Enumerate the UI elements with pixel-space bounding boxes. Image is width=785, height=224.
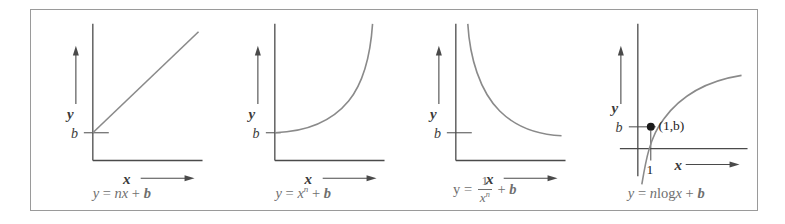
formula-constant: b <box>509 181 516 197</box>
point-marker-1-b <box>646 123 654 131</box>
formula-exponent: n <box>304 184 309 194</box>
formula-numerator: 1 <box>478 174 492 188</box>
intercept-label: b <box>253 126 260 142</box>
formula-plus: + <box>686 185 694 201</box>
inverse-power-curve <box>468 24 562 136</box>
formula-lhs: y <box>276 185 282 201</box>
formula-constant: b <box>144 185 151 201</box>
formula-constant: b <box>324 185 331 201</box>
formula-equals: = <box>638 185 646 201</box>
y-axis-label: y <box>612 100 619 117</box>
formula-fraction: 1 xn <box>478 174 492 205</box>
formula-equals: = <box>464 181 472 197</box>
intercept-label: b <box>71 126 78 142</box>
y-axis-arrow-head <box>254 46 260 56</box>
y-axis-label: y <box>67 106 74 123</box>
y-axis-arrow-head <box>73 46 79 56</box>
intercept-label: b <box>616 120 623 136</box>
x-tick-label-one: 1 <box>647 162 654 178</box>
x-axis-label: x <box>675 157 683 174</box>
formula-variable: x <box>676 185 682 201</box>
x-axis-arrow-head <box>729 161 739 167</box>
formula-denominator-exponent: n <box>486 190 490 199</box>
logarithmic-formula: y = nlogx + b <box>576 185 758 202</box>
linear-function-panel: y b x y = nx + b <box>31 10 213 210</box>
formula-plus: + <box>132 185 140 201</box>
power-plot <box>213 10 395 210</box>
power-function-panel: y b x y = xn + b <box>213 10 395 210</box>
formula-plus: + <box>497 181 505 197</box>
formula-constant: b <box>697 185 704 201</box>
intercept-label: b <box>434 126 441 142</box>
linear-formula: y = nx + b <box>31 185 213 202</box>
logarithmic-plot <box>576 10 758 210</box>
formula-coefficient: n <box>115 185 122 201</box>
x-axis-arrow-head <box>185 175 195 181</box>
power-formula: y = xn + b <box>213 184 395 202</box>
y-axis-label: y <box>249 106 256 123</box>
formula-log: log <box>657 185 676 201</box>
formula-lhs: y <box>93 185 99 201</box>
inverse-power-function-panel: y b x y = 1 xn + b <box>394 10 576 210</box>
figure-frame: y b x y = nx + b y b <box>30 9 758 211</box>
inverse-power-formula: y = 1 xn + b <box>394 175 576 206</box>
y-axis-arrow-head <box>436 46 442 56</box>
formula-lhs: y <box>453 181 460 197</box>
linear-plot <box>31 10 213 210</box>
linear-curve <box>93 32 199 133</box>
formula-coefficient: n <box>650 185 657 201</box>
logarithmic-function-panel: y b (1,b) 1 x y = nlogx + b <box>576 10 758 210</box>
formula-lhs: y <box>628 185 634 201</box>
formula-plus: + <box>312 185 320 201</box>
logarithmic-curve <box>641 75 741 184</box>
formula-variable: x <box>122 185 128 201</box>
y-axis-arrow-head <box>617 46 623 56</box>
formula-equals: = <box>103 185 111 201</box>
y-axis-label: y <box>430 106 437 123</box>
panels-row: y b x y = nx + b y b <box>31 10 757 210</box>
point-label-1-b: (1,b) <box>659 118 685 134</box>
formula-equals: = <box>286 185 294 201</box>
power-curve <box>274 24 372 133</box>
x-axis-arrow-head <box>366 175 376 181</box>
formula-denominator: xn <box>478 191 492 205</box>
